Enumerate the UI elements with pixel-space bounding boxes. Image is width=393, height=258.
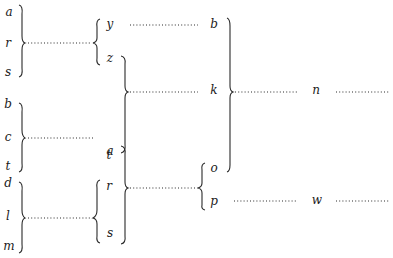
brace-r-s: [93, 180, 100, 243]
label-c2-s: s: [107, 227, 113, 239]
label-c2-r: r: [106, 180, 112, 192]
brace-y-z: [93, 19, 100, 65]
label-c1-c: c: [5, 131, 12, 143]
label-c1-t: t: [6, 160, 11, 172]
label-c3-o: o: [210, 162, 217, 174]
label-c1-d: d: [4, 177, 12, 189]
brace-b-k-o: [227, 18, 233, 172]
label-c2-z: z: [107, 52, 113, 64]
brace-b-c-t: [19, 103, 25, 172]
label-c3-p: p: [210, 195, 218, 207]
label-c2-y: y: [107, 18, 114, 30]
brace-t-r-s: [121, 146, 128, 244]
label-c3-b: b: [210, 18, 218, 30]
label-c1-a: a: [5, 6, 12, 18]
label-c2-t: t: [107, 149, 112, 161]
label-c4-w: w: [312, 194, 322, 206]
label-c3-k: k: [210, 84, 217, 96]
label-c1-s: s: [5, 66, 11, 78]
brace-d-l-m: [19, 182, 25, 253]
label-c1-b: b: [4, 98, 12, 110]
label-c1-l: l: [6, 210, 10, 222]
label-c1-r: r: [5, 37, 11, 49]
brace-o-p: [198, 163, 205, 210]
label-c4-n: n: [312, 84, 320, 96]
diagram-lines: [0, 0, 393, 258]
label-c1-m: m: [3, 240, 14, 252]
brace-a-r-s: [19, 5, 25, 77]
brace-z-a: [121, 56, 128, 153]
